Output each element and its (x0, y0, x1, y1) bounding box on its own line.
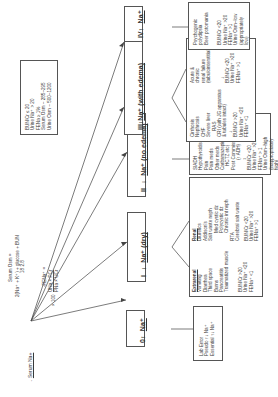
category-0-details: Lab Error Pseudo ↑↓ Na⁺ Essential ↑↓ Na⁺ (193, 306, 223, 361)
root-criteria-box: BUN/Cr ≤ 20 Urine Na⁺ > 20 FENa ≥ 1% Ser… (20, 60, 58, 135)
up-arrow-icon: ↑ (137, 28, 144, 32)
extrarenal-column: Extrarenal Vomiting Diarrhea Third space… (192, 251, 254, 292)
down-arrow-icon: ↓ (140, 267, 147, 271)
edema-left-column: Cirrhosis Nephrosis CHF Severe liver RAS… (190, 89, 249, 137)
down-arrow-icon: ↓ (140, 180, 147, 184)
edema-right-column: Acute & chronic renal failure (tubuloint… (190, 48, 241, 83)
fena-multiplier: × 100 (51, 294, 56, 306)
category-III-box: III↓Na⁺ (with edema) (124, 37, 143, 135)
diagram-canvas: ↓ Serum Na+ Serum Osm = 2(Na⁺ + K⁺) + gl… (0, 0, 278, 397)
fena-label: -FENa⁺ = (42, 267, 47, 287)
serum-na-title: ↓ Serum Na+ (28, 353, 33, 382)
category-0-box: 0↕ Na⁺ (126, 310, 145, 347)
down-arrow-icon: ↓ (137, 121, 144, 125)
down-arrow-icon: ↓ (27, 378, 33, 382)
serum-osm-denominators: 18 2.8 (20, 260, 25, 273)
category-I-details: Extrarenal Vomiting Diarrhea Third space… (189, 177, 263, 297)
category-I-box: I ↓ Na⁺ (dry) (127, 212, 146, 282)
category-IV-details: Psychogenic polydipsia Beer potomania BU… (188, 2, 250, 50)
fena-denominator: PNa × UCr (54, 270, 59, 292)
category-IV-box: IV↑ Na⁺ (124, 6, 143, 42)
up-down-arrow-icon: ↕ (139, 336, 146, 340)
serum-osm-label: Serum Osm = (8, 254, 13, 282)
category-III-details: Cirrhosis Nephrosis CHF Severe liver RAS… (186, 38, 256, 142)
renal-column: Renal Diuretics Addison's Salt waste nep… (192, 200, 260, 241)
